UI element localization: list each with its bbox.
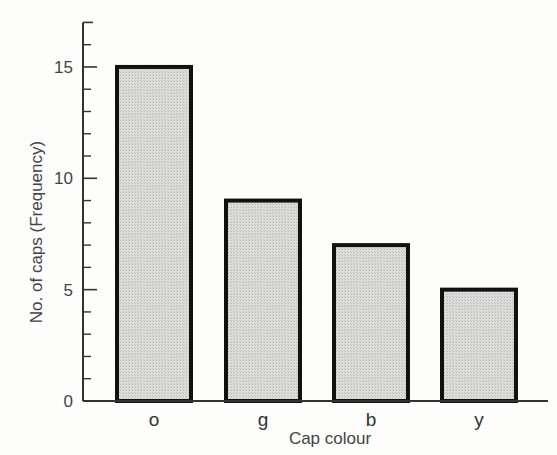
y-tick-label: 10 xyxy=(54,169,73,188)
bar-b xyxy=(334,245,408,401)
x-axis-title: Cap colour xyxy=(289,429,372,448)
x-tick-label: o xyxy=(149,409,160,430)
x-tick-label: y xyxy=(474,409,484,430)
y-tick-label: 0 xyxy=(64,392,73,411)
bar-y xyxy=(442,290,516,401)
y-axis-title: No. of caps (Frequency) xyxy=(27,141,46,323)
x-axis: ogby xyxy=(83,401,548,430)
bar-chart: 051015 ogby No. of caps (Frequency) Cap … xyxy=(0,0,557,455)
x-tick-label: g xyxy=(258,409,269,430)
x-tick-label: b xyxy=(366,409,377,430)
y-tick-label: 15 xyxy=(54,58,73,77)
bar-o xyxy=(117,67,191,401)
y-tick-label: 5 xyxy=(64,281,73,300)
bar-g xyxy=(226,201,300,401)
y-axis: 051015 xyxy=(54,22,97,411)
bars xyxy=(117,67,516,401)
